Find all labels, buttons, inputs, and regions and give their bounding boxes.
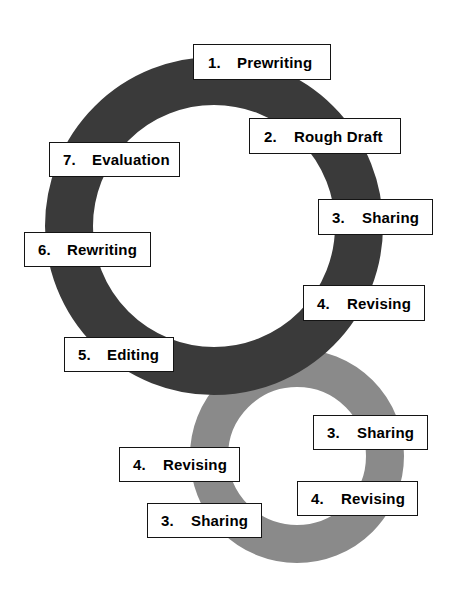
- label-step-number: 7.: [63, 151, 76, 168]
- label-step-text: Prewriting: [237, 54, 312, 71]
- label-step-text: Evaluation: [92, 151, 170, 168]
- label-step-number: 5.: [78, 346, 91, 363]
- label-step-number: 3.: [327, 424, 340, 441]
- label-step-number: 2.: [264, 128, 277, 145]
- label-step-4-revising: 4.Revising: [303, 285, 425, 321]
- label-step-number: 1.: [208, 54, 221, 71]
- label-step-text: Rough Draft: [294, 128, 383, 145]
- label-step-number: 4.: [317, 295, 330, 312]
- label-step-7-evaluation: 7.Evaluation: [49, 142, 180, 177]
- label-step-text: Editing: [107, 346, 159, 363]
- label-step-number: 3.: [161, 512, 174, 529]
- label-step-1-prewriting: 1.Prewriting: [193, 44, 331, 80]
- label-step-5-editing: 5.Editing: [64, 337, 174, 372]
- label-loop-3-sharing-left: 3.Sharing: [147, 503, 262, 538]
- label-step-text: Sharing: [362, 209, 419, 226]
- label-step-2-rough-draft: 2.Rough Draft: [249, 118, 401, 154]
- label-step-number: 4.: [311, 490, 324, 507]
- label-step-number: 4.: [133, 456, 146, 473]
- label-step-6-rewriting: 6.Rewriting: [24, 232, 151, 267]
- label-step-text: Revising: [347, 295, 411, 312]
- label-step-text: Sharing: [191, 512, 248, 529]
- label-loop-4-revising-left: 4.Revising: [119, 447, 240, 482]
- writing-process-diagram: 1.Prewriting2.Rough Draft3.Sharing4.Revi…: [0, 0, 452, 594]
- label-step-text: Revising: [163, 456, 227, 473]
- label-step-number: 3.: [332, 209, 345, 226]
- label-loop-4-revising-right: 4.Revising: [297, 481, 418, 516]
- label-loop-3-sharing-right: 3.Sharing: [313, 415, 428, 450]
- label-step-text: Rewriting: [67, 241, 137, 258]
- label-step-text: Sharing: [357, 424, 414, 441]
- label-step-number: 6.: [38, 241, 51, 258]
- label-step-text: Revising: [341, 490, 405, 507]
- label-step-3-sharing: 3.Sharing: [318, 199, 433, 235]
